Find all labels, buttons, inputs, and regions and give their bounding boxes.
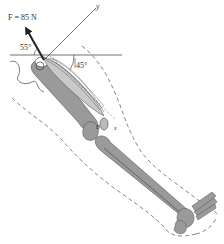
leg-outline-foot (196, 218, 216, 234)
force-label: F = 85 N (8, 13, 37, 22)
point-b-label: B (96, 124, 100, 130)
angle-arc-45 (70, 55, 74, 70)
diagram-canvas: y F = 85 N 55° 45° x B (0, 0, 224, 244)
patella (100, 118, 108, 130)
fibula-bone (104, 148, 182, 214)
angle-label-45: 45° (76, 61, 87, 70)
y-axis-label: y (95, 2, 100, 11)
leg-diagram: y F = 85 N 55° 45° x B (0, 0, 224, 244)
foot-bones (174, 192, 217, 234)
angle-label-55: 55° (20, 43, 31, 52)
x-axis-label: x (113, 125, 117, 131)
y-axis (44, 8, 96, 60)
tibia-bone (95, 136, 190, 219)
